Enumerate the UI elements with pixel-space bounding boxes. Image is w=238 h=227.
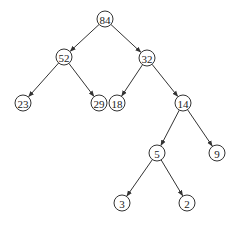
tree-node-18: 18 xyxy=(109,95,125,111)
tree-node-2: 2 xyxy=(179,195,195,211)
tree-node-9: 9 xyxy=(209,145,225,161)
edge-14-5 xyxy=(161,110,179,145)
node-label: 14 xyxy=(178,98,190,110)
edge-5-3 xyxy=(127,160,153,196)
node-label: 32 xyxy=(142,53,153,65)
edge-14-9 xyxy=(187,110,212,146)
tree-node-32: 32 xyxy=(139,50,155,66)
node-label: 5 xyxy=(154,148,160,160)
edge-32-14 xyxy=(152,64,178,96)
tree-node-5: 5 xyxy=(149,145,165,161)
tree-diagram: 845232232918145932 xyxy=(0,0,238,227)
tree-node-14: 14 xyxy=(175,95,191,111)
edge-84-52 xyxy=(70,24,99,51)
node-label: 9 xyxy=(214,148,220,160)
tree-node-52: 52 xyxy=(56,49,72,65)
node-label: 23 xyxy=(18,98,30,110)
node-label: 3 xyxy=(119,198,125,210)
tree-node-29: 29 xyxy=(91,95,107,111)
edge-52-29 xyxy=(69,63,94,96)
node-label: 18 xyxy=(112,98,124,110)
node-label: 52 xyxy=(59,52,70,64)
tree-node-84: 84 xyxy=(97,11,113,27)
node-label: 29 xyxy=(94,98,106,110)
tree-nodes: 845232232918145932 xyxy=(15,11,225,211)
edge-32-18 xyxy=(122,65,143,96)
edge-84-32 xyxy=(111,24,141,52)
tree-node-23: 23 xyxy=(15,95,31,111)
edge-52-23 xyxy=(29,63,59,97)
edge-5-2 xyxy=(161,160,183,196)
node-label: 2 xyxy=(184,198,190,210)
node-label: 84 xyxy=(100,14,112,26)
tree-node-3: 3 xyxy=(114,195,130,211)
